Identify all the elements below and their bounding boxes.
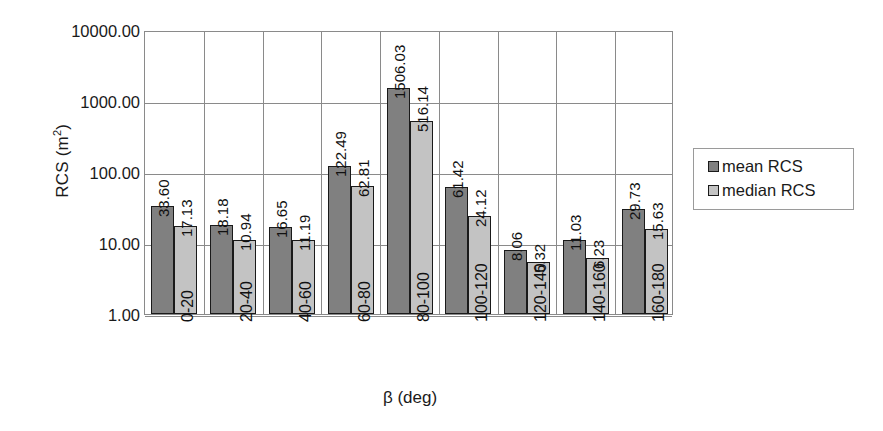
bar-value-label: 61.42 bbox=[450, 160, 465, 198]
legend-label-median-rcs: median RCS bbox=[722, 182, 816, 199]
bar-value-label: 11.19 bbox=[297, 214, 312, 250]
x-gridline bbox=[556, 32, 557, 314]
bar-value-label: 15.63 bbox=[650, 203, 665, 241]
y-axis-tick-label: 1000.00 bbox=[40, 94, 140, 111]
legend-swatch-median-rcs bbox=[708, 185, 719, 196]
x-axis-tick-label: 40-60 bbox=[298, 281, 314, 322]
bar-mean bbox=[328, 166, 351, 314]
bar-value-label: 24.12 bbox=[473, 189, 488, 227]
bar-value-label: 29.73 bbox=[627, 183, 642, 221]
bar-value-label: 16.65 bbox=[274, 201, 289, 239]
y-axis-tick-label: 100.00 bbox=[40, 165, 140, 182]
x-axis-tick-label: 140-160 bbox=[592, 263, 608, 322]
x-axis-tick-label: 160-180 bbox=[651, 263, 667, 322]
legend-swatch-mean-rcs bbox=[708, 161, 719, 172]
x-axis-tick-label: 100-120 bbox=[474, 263, 490, 322]
y-axis-tick-labels: 10000.001000.00100.0010.001.00 bbox=[36, 0, 140, 431]
bar-value-label: 11.03 bbox=[568, 215, 583, 251]
x-gridline bbox=[498, 32, 499, 314]
bar-value-label: 18.18 bbox=[215, 198, 230, 236]
x-axis-tick-label: 60-80 bbox=[357, 281, 373, 322]
x-gridline bbox=[321, 32, 322, 314]
legend-label-mean-rcs: mean RCS bbox=[722, 158, 803, 175]
x-gridline bbox=[380, 32, 381, 314]
bar-mean bbox=[210, 225, 233, 314]
legend-item-median-rcs[interactable]: median RCS bbox=[708, 182, 816, 199]
bar-mean bbox=[269, 227, 292, 314]
bar-value-label: 33.60 bbox=[156, 179, 171, 217]
x-gridline bbox=[615, 32, 616, 314]
legend-item-mean-rcs[interactable]: mean RCS bbox=[708, 158, 803, 175]
x-axis-tick-label: 0-20 bbox=[180, 290, 196, 322]
y-axis-tick-label: 10.00 bbox=[40, 236, 140, 253]
bar-value-label: 17.13 bbox=[179, 200, 194, 238]
y-axis-tick-label: 10000.00 bbox=[40, 23, 140, 40]
bar-value-label: 122.49 bbox=[333, 131, 348, 177]
x-gridline bbox=[263, 32, 264, 314]
bar-mean bbox=[563, 240, 586, 314]
bar-value-label: 516.14 bbox=[415, 87, 430, 133]
bar-value-label: 8.06 bbox=[509, 231, 524, 260]
x-axis-tick-label: 120-140 bbox=[533, 263, 549, 322]
bar-mean bbox=[622, 209, 645, 314]
rcs-bar-chart: RCS (m2) 10000.001000.00100.0010.001.00 … bbox=[0, 0, 883, 431]
x-axis-title: β (deg) bbox=[300, 388, 520, 408]
x-gridline bbox=[204, 32, 205, 314]
bar-mean bbox=[445, 187, 468, 314]
x-axis-tick-label: 20-40 bbox=[239, 281, 255, 322]
bar-mean bbox=[387, 88, 410, 314]
bar-value-label: 62.81 bbox=[356, 160, 371, 198]
bar-value-label: 10.94 bbox=[238, 214, 253, 252]
x-axis-tick-label: 80-100 bbox=[416, 272, 432, 322]
y-axis-tick-label: 1.00 bbox=[40, 307, 140, 324]
bar-mean bbox=[151, 206, 174, 314]
bar-value-label: 1506.03 bbox=[392, 45, 407, 99]
x-gridline bbox=[439, 32, 440, 314]
chart-legend: mean RCS median RCS bbox=[693, 148, 854, 210]
